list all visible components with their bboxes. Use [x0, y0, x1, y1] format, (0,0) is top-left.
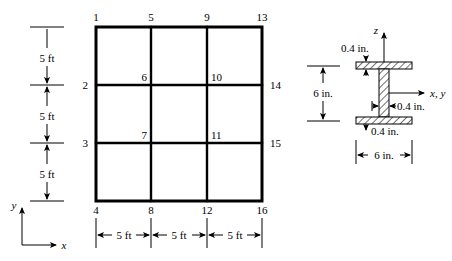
node-label-3: 3: [83, 137, 89, 149]
section-depth-label: 6 in.: [313, 87, 333, 99]
node-label-1: 1: [93, 11, 99, 23]
section-xy-axis-label: x, y: [429, 87, 445, 99]
global-x-axis-label: x: [61, 239, 67, 251]
hdim-label-1: 5 ft: [117, 229, 132, 241]
node-label-16: 16: [257, 204, 269, 216]
node-label-12: 12: [202, 204, 213, 216]
engineering-figure: 1 2 3 4 5 6 7 8 9 10 11 12 13 14 15 16: [0, 0, 452, 261]
hdim-label-2: 5 ft: [172, 229, 187, 241]
node-label-10: 10: [211, 71, 223, 83]
section-top-flange: [356, 62, 412, 69]
section-bottom-flange-thickness-label: 0.4 in.: [371, 125, 399, 137]
node-label-2: 2: [83, 79, 89, 91]
node-label-11: 11: [211, 129, 222, 141]
section-web-thickness-label: 0.4 in.: [397, 100, 425, 112]
node-label-15: 15: [270, 137, 282, 149]
vdim-label-2: 5 ft: [40, 110, 55, 122]
node-label-13: 13: [257, 11, 269, 23]
figure-canvas: 1 2 3 4 5 6 7 8 9 10 11 12 13 14 15 16: [0, 0, 452, 261]
section-width-label: 6 in.: [374, 149, 394, 161]
section-z-axis-label: z: [373, 24, 379, 36]
node-label-8: 8: [148, 204, 154, 216]
node-label-14: 14: [270, 79, 282, 91]
section-top-flange-thickness-label: 0.4 in.: [341, 42, 369, 54]
global-y-axis-label: y: [11, 199, 17, 211]
section-bottom-flange: [356, 117, 412, 124]
node-label-5: 5: [148, 11, 154, 23]
section-web: [379, 69, 389, 117]
vdim-label-1: 5 ft: [40, 52, 55, 64]
node-label-4: 4: [93, 204, 99, 216]
node-label-6: 6: [142, 71, 148, 83]
vdim-label-3: 5 ft: [40, 168, 55, 180]
hdim-label-3: 5 ft: [228, 229, 243, 241]
node-label-9: 9: [204, 11, 210, 23]
node-label-7: 7: [142, 129, 148, 141]
